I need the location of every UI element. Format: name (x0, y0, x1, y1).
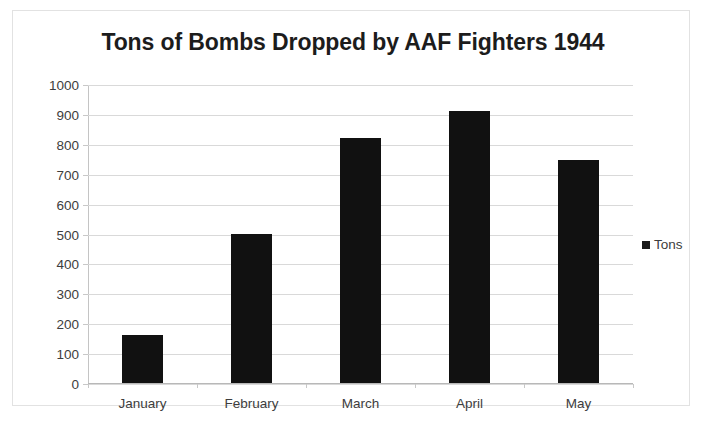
y-axis-label: 400 (56, 257, 79, 272)
chart-title: Tons of Bombs Dropped by AAF Fighters 19… (73, 29, 633, 56)
y-axis-tick (83, 354, 88, 355)
y-axis-tick (83, 235, 88, 236)
bar (231, 234, 272, 384)
x-axis-label: March (342, 396, 380, 411)
x-axis-tick (197, 384, 198, 388)
y-axis-label: 100 (56, 347, 79, 362)
bar (340, 138, 381, 383)
y-axis-tick (83, 115, 88, 116)
y-axis-label: 800 (56, 137, 79, 152)
x-axis-label: February (224, 396, 278, 411)
y-axis-label: 500 (56, 227, 79, 242)
bar (449, 111, 490, 383)
legend-swatch-tons (642, 241, 650, 249)
y-axis-label: 200 (56, 317, 79, 332)
y-axis-label: 0 (71, 377, 79, 392)
x-axis-tick (633, 384, 634, 388)
gridline (88, 85, 633, 86)
y-axis-tick (83, 324, 88, 325)
x-axis-label: January (118, 396, 166, 411)
y-axis-tick (83, 294, 88, 295)
y-axis-tick (83, 85, 88, 86)
x-axis-tick (306, 384, 307, 388)
bar (122, 335, 163, 383)
y-axis-label: 900 (56, 107, 79, 122)
x-axis-label: April (456, 396, 483, 411)
legend-label-tons: Tons (654, 237, 683, 252)
x-axis-label: May (566, 396, 592, 411)
gridline (88, 384, 633, 385)
gridline (88, 115, 633, 116)
chart-frame: Tons of Bombs Dropped by AAF Fighters 19… (12, 10, 690, 406)
y-axis-label: 300 (56, 287, 79, 302)
chart-legend: Tons (642, 237, 683, 252)
y-axis-tick (83, 145, 88, 146)
plot-area: 10009008007006005004003002001000 January… (88, 85, 633, 384)
x-axis-tick (88, 384, 89, 388)
y-axis-tick (83, 175, 88, 176)
x-axis-tick (415, 384, 416, 388)
bar (558, 160, 599, 383)
y-axis-tick (83, 205, 88, 206)
y-axis-label: 1000 (49, 78, 79, 93)
y-axis-label: 700 (56, 167, 79, 182)
x-axis-tick (524, 384, 525, 388)
y-axis-tick (83, 264, 88, 265)
y-axis-label: 600 (56, 197, 79, 212)
